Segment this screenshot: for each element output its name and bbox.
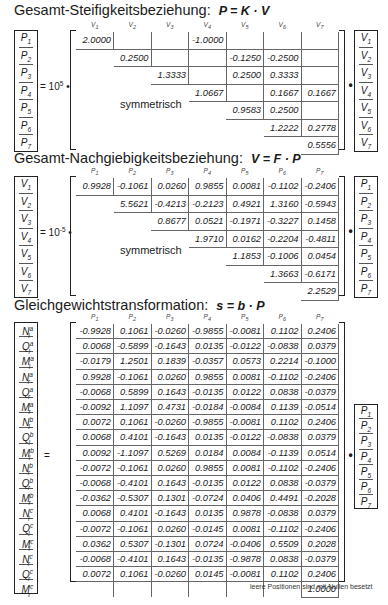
matrix-cell: -0.1061	[114, 178, 152, 195]
matrix-cell	[189, 49, 227, 67]
matrix-cell: -0.0072	[76, 521, 114, 536]
matrix-cell: 0.1458	[301, 213, 339, 231]
matrix-cell: 0.4731	[151, 400, 189, 415]
matrix-cell: 0.0122	[226, 384, 264, 399]
matrix-row: 1.1853-0.10060.0454	[76, 248, 339, 266]
matrix-cell: 0.5269	[151, 445, 189, 460]
matrix-cell: 0.1139	[264, 400, 302, 415]
matrix-cell: 0.4101	[114, 430, 152, 445]
vector-entry: V2	[19, 194, 33, 212]
matrix-cell: 0.0260	[151, 178, 189, 195]
matrix-cell: 0.0379	[301, 506, 339, 521]
column-header: P6	[264, 313, 302, 322]
vector-entry: V3	[19, 211, 33, 229]
vector-entry: Nar	[19, 368, 33, 383]
matrix-cell	[76, 265, 114, 283]
column-header: P6	[264, 167, 302, 176]
matrix-cell: -0.9855	[189, 324, 227, 339]
matrix-cell: -0.0362	[76, 491, 114, 506]
matrix-cell: -0.0838	[264, 339, 302, 354]
matrix-cell: 1.3663	[264, 265, 302, 283]
column-header: V2	[114, 21, 152, 30]
matrix-cell: 0.5899	[114, 384, 152, 399]
matrix-row: 0.0092-1.10970.52690.01840.0084-0.11390.…	[76, 445, 339, 460]
matrix-cell	[151, 119, 189, 137]
matrix-cell: 0.0838	[264, 476, 302, 491]
matrix-cell: -0.1061	[114, 369, 152, 384]
matrix-cell: -0.5899	[114, 339, 152, 354]
matrix-row: -0.01791.25010.1839-0.03570.05730.2214-0…	[76, 354, 339, 369]
matrix-cell	[189, 102, 227, 120]
section-title-flexibility: Gesamt-Nachgiebigkeitsbeziehung: V = F ·…	[14, 150, 301, 166]
matrix-cell: -0.0260	[151, 415, 189, 430]
matrix-cell: 0.0072	[76, 567, 114, 582]
matrix-cell: 0.0135	[189, 430, 227, 445]
matrix-cell: 0.0092	[76, 445, 114, 460]
title-text: Gesamt-Nachgiebigkeitsbeziehung:	[14, 150, 243, 166]
matrix-row: 0.00680.4101-0.16430.01350.9878-0.08380.…	[76, 506, 339, 521]
matrix-cell: 0.0122	[226, 476, 264, 491]
matrix-row: -0.0068-0.41010.1643-0.0135-0.98780.0838…	[76, 552, 339, 567]
matrix-cell: 0.1839	[151, 354, 189, 369]
matrix-cell: 0.0068	[76, 430, 114, 445]
vector-entry: Mal	[19, 352, 33, 367]
matrix-cell: -0.5943	[301, 195, 339, 213]
matrix-cell	[226, 119, 264, 137]
matrix-cell: 0.0724	[189, 536, 227, 551]
matrix-row: -0.0068-0.41010.1643-0.01350.01220.0838-…	[76, 476, 339, 491]
matrix-cell: -0.0838	[264, 506, 302, 521]
matrix-cell: 1.1853	[226, 248, 264, 266]
matrix-cell: -0.2204	[264, 230, 302, 248]
vector-entry: V3	[359, 65, 373, 83]
vector-entry: P4	[19, 83, 33, 101]
matrix-cell: -0.1102	[264, 521, 302, 536]
matrix-cell	[76, 248, 114, 266]
matrix-cell: -0.0260	[151, 567, 189, 582]
equation: V = F · P	[251, 152, 301, 166]
column-header: P3	[151, 313, 189, 322]
symmetric-label: symmetrisch	[120, 98, 182, 110]
matrix-cell: 0.2500	[114, 49, 152, 67]
matrix-cell: 0.9928	[76, 369, 114, 384]
matrix: 2.0000-1.00000.2500-0.1250-0.25001.33330…	[70, 30, 345, 150]
matrix-cell: -1.1097	[114, 445, 152, 460]
matrix-row: -0.0072-0.10610.0260-0.01450.0081-0.1102…	[76, 521, 339, 536]
matrix-cell: -0.0135	[189, 552, 227, 567]
matrix-cell	[114, 265, 152, 283]
matrix-cell	[114, 32, 152, 49]
matrix-cell: 0.5307	[114, 536, 152, 551]
matrix-cell: -0.0379	[301, 552, 339, 567]
matrix-cell: -0.0081	[226, 567, 264, 582]
matrix-cell: -0.1102	[264, 369, 302, 384]
vector-entry: P5	[19, 100, 33, 118]
matrix-cell: -0.0514	[301, 400, 339, 415]
matrix-cell: 0.0521	[189, 213, 227, 231]
matrix-cell: 0.0135	[189, 506, 227, 521]
matrix: 0.9928-0.10610.02600.98550.0081-0.1102-0…	[70, 176, 345, 296]
matrix-cell: 0.1643	[151, 476, 189, 491]
vector-entry: V6	[359, 118, 373, 136]
matrix-cell: 0.1061	[114, 415, 152, 430]
matrix-cell: 5.5621	[114, 195, 152, 213]
matrix-cell: -0.1061	[114, 521, 152, 536]
matrix-cell: 0.0379	[301, 430, 339, 445]
matrix-cell	[76, 195, 114, 213]
column-header: V3	[151, 21, 189, 30]
matrix-cell	[189, 582, 227, 597]
vector-entry: P6	[359, 480, 373, 495]
scale-factor: = 105 •	[40, 80, 70, 92]
matrix-cell	[189, 67, 227, 85]
matrix-cell	[114, 213, 152, 231]
matrix-row: 1.97100.0162-0.2204-0.4811	[76, 230, 339, 248]
equation: s = b · P	[216, 299, 264, 313]
vector-entry: P4	[359, 229, 373, 247]
matrix-cell: 1.3160	[264, 195, 302, 213]
matrix-cell	[264, 32, 302, 49]
matrix-cell	[76, 49, 114, 67]
vector-entry: P2	[19, 48, 33, 66]
left-vector: NalQalMalNarQarMarNblQblMblNbrQbrMbrNclQ…	[14, 322, 38, 594]
matrix-cell: 1.9710	[189, 230, 227, 248]
matrix-cell: -0.0145	[189, 521, 227, 536]
vector-entry: P3	[359, 434, 373, 449]
matrix-cell: 0.1102	[264, 567, 302, 582]
